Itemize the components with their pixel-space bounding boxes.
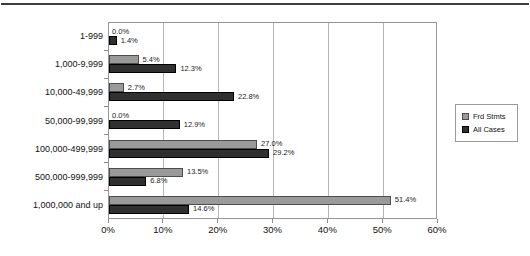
x-tick-mark xyxy=(437,219,438,223)
x-tick-label: 40% xyxy=(305,224,349,235)
bar-all-cases xyxy=(109,64,176,73)
x-tick-mark xyxy=(272,219,273,223)
value-label: 13.5% xyxy=(187,168,208,176)
bar-all-cases xyxy=(109,177,146,186)
gridline-50 xyxy=(383,23,384,218)
value-label: 6.8% xyxy=(150,177,167,185)
x-tick-label: 0% xyxy=(86,224,130,235)
bar-frd-stmts xyxy=(109,83,124,92)
bar-frd-stmts xyxy=(109,140,257,149)
value-label: 0.0% xyxy=(112,112,129,120)
x-tick-mark xyxy=(108,219,109,223)
value-label: 2.7% xyxy=(128,84,145,92)
legend-label-frd-stmts: Frd Stmts xyxy=(473,112,506,121)
value-label: 27.0% xyxy=(261,140,282,148)
x-tick-mark xyxy=(217,219,218,223)
bar-all-cases xyxy=(109,205,189,214)
bar-frd-stmts xyxy=(109,196,391,205)
value-label: 12.3% xyxy=(180,65,201,73)
y-tick-mark xyxy=(104,190,108,191)
value-label: 29.2% xyxy=(273,149,294,157)
bar-frd-stmts xyxy=(109,55,139,64)
category-label: 1,000-9,999 xyxy=(0,59,103,69)
gridline-30 xyxy=(273,23,274,218)
x-tick-label: 30% xyxy=(251,224,295,235)
legend-label-all-cases: All Cases xyxy=(473,125,505,134)
value-label: 14.6% xyxy=(193,205,214,213)
gridline-40 xyxy=(328,23,329,218)
value-label: 0.0% xyxy=(112,28,129,36)
x-tick-label: 60% xyxy=(415,224,459,235)
category-label: 50,000-99,999 xyxy=(0,116,103,126)
category-label: 1,000,000 and up xyxy=(0,200,103,210)
legend-item-all-cases: All Cases xyxy=(462,123,517,136)
y-tick-mark xyxy=(104,50,108,51)
value-label: 51.4% xyxy=(395,196,416,204)
value-label: 22.8% xyxy=(238,93,259,101)
bar-all-cases xyxy=(109,120,180,129)
legend-item-frd-stmts: Frd Stmts xyxy=(462,110,517,123)
category-label: 500,000-999,999 xyxy=(0,172,103,182)
y-tick-mark xyxy=(104,162,108,163)
value-label: 1.4% xyxy=(121,37,138,45)
legend-box: Frd Stmts All Cases xyxy=(455,104,518,142)
bar-all-cases xyxy=(109,149,269,158)
category-label: 1-999 xyxy=(0,31,103,41)
bar-all-cases xyxy=(109,92,234,101)
value-label: 5.4% xyxy=(143,56,160,64)
legend-swatch-frd-stmts xyxy=(462,113,469,120)
category-label: 10,000-49,999 xyxy=(0,87,103,97)
x-tick-label: 50% xyxy=(360,224,404,235)
y-tick-mark xyxy=(104,134,108,135)
x-tick-mark xyxy=(382,219,383,223)
bar-all-cases xyxy=(109,36,117,45)
y-tick-mark xyxy=(104,78,108,79)
chart-screen: 0.0%1.4%5.4%12.3%2.7%22.8%0.0%12.9%27.0%… xyxy=(0,0,530,256)
value-label: 12.9% xyxy=(184,121,205,129)
gridline-20 xyxy=(218,23,219,218)
legend-swatch-all-cases xyxy=(462,126,469,133)
plot-area: 0.0%1.4%5.4%12.3%2.7%22.8%0.0%12.9%27.0%… xyxy=(108,22,437,219)
top-divider-rule xyxy=(1,3,529,5)
x-tick-mark xyxy=(162,219,163,223)
x-tick-label: 10% xyxy=(141,224,185,235)
category-label: 100,000-499,999 xyxy=(0,144,103,154)
x-tick-label: 20% xyxy=(196,224,240,235)
bar-frd-stmts xyxy=(109,168,183,177)
y-tick-mark xyxy=(104,106,108,107)
x-tick-mark xyxy=(327,219,328,223)
